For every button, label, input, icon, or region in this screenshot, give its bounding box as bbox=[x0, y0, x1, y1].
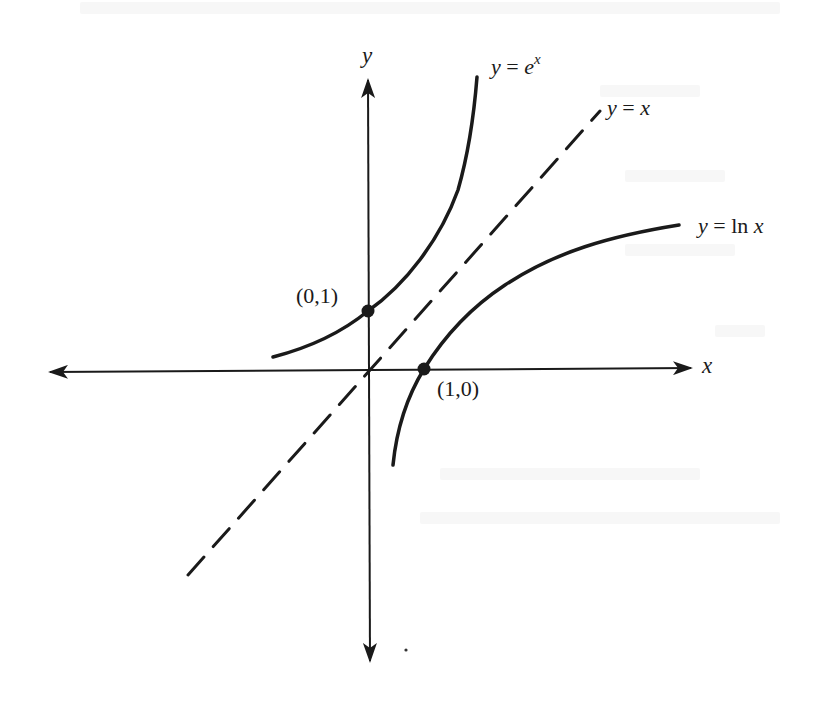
x-axis-left-arrow-icon bbox=[50, 370, 370, 372]
exp-label-exponent: x bbox=[534, 51, 541, 67]
log-label-lhs: y bbox=[698, 213, 708, 238]
y-axis-label: y bbox=[362, 44, 372, 67]
log-label-fn: ln bbox=[731, 213, 754, 238]
exp-label-base: e bbox=[524, 54, 534, 79]
identity-label-lhs: y bbox=[607, 95, 617, 120]
point-1-0-dot bbox=[418, 363, 431, 376]
point-1-0-label: (1,0) bbox=[437, 378, 479, 400]
scan-speck bbox=[404, 648, 407, 651]
identity-line-label: y = x bbox=[607, 97, 650, 119]
identity-line bbox=[188, 111, 600, 575]
exp-label-eq: = bbox=[501, 54, 524, 79]
exp-curve bbox=[273, 77, 477, 357]
identity-label-eq: = bbox=[617, 95, 640, 120]
identity-label-rhs: x bbox=[640, 95, 650, 120]
point-0-1-label: (0,1) bbox=[296, 285, 338, 307]
log-label-arg: x bbox=[754, 213, 764, 238]
y-axis-down-arrow-icon bbox=[369, 370, 370, 661]
function-graph bbox=[0, 0, 824, 702]
log-label-eq: = bbox=[708, 213, 731, 238]
exp-curve-label: y = ex bbox=[491, 56, 541, 78]
y-axis-up-arrow-icon bbox=[368, 80, 369, 370]
x-axis-label: x bbox=[702, 354, 712, 377]
exp-label-lhs: y bbox=[491, 54, 501, 79]
log-curve-label: y = ln x bbox=[698, 215, 764, 237]
point-0-1-dot bbox=[362, 305, 375, 318]
log-curve bbox=[393, 225, 679, 465]
